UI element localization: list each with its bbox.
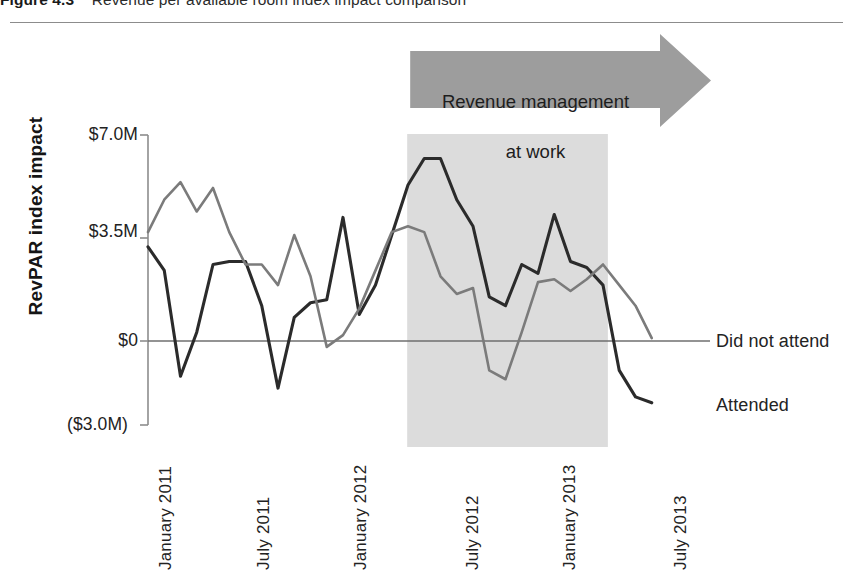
series-label-attended: Attended xyxy=(716,395,789,416)
y-tick-label-7-0m: $7.0M xyxy=(18,124,138,145)
banner-line-1: Revenue management xyxy=(442,91,629,112)
banner-label: Revenue management at work xyxy=(418,64,653,164)
y-tick-label-0: $0 xyxy=(18,330,138,351)
figure-root: Figure 4.3 Revenue per available room in… xyxy=(0,0,853,581)
chart-axis xyxy=(140,135,148,425)
y-tick-label-3-5m: $3.5M xyxy=(18,221,138,242)
revenue-management-band xyxy=(407,134,608,447)
series-label-did-not-attend: Did not attend xyxy=(716,331,829,352)
x-tick-label-july-2011: July 2011 xyxy=(254,497,274,570)
x-tick-label-july-2012: July 2012 xyxy=(463,495,483,570)
banner-line-2: at work xyxy=(506,141,566,162)
x-tick-label-january-2011: January 2011 xyxy=(156,466,176,570)
x-tick-label-january-2013: January 2013 xyxy=(560,465,580,570)
y-tick-label-neg-3-0m: ($3.0M) xyxy=(8,414,128,435)
x-tick-label-july-2013: July 2013 xyxy=(671,495,691,570)
x-tick-label-january-2012: January 2012 xyxy=(351,465,371,570)
